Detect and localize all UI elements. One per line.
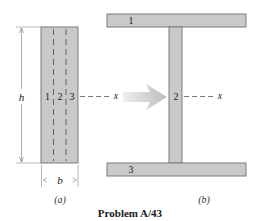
transform-arrow-icon [123, 84, 167, 110]
top-flange-label: 1 [129, 15, 134, 26]
strip-label-2: 2 [58, 91, 63, 102]
part-b-label: (b) [198, 194, 210, 206]
diagram-canvas: h b 1 2 3 x (a) 1 2 3 x (b) Problem A/43 [0, 0, 260, 221]
part-a-label: (a) [54, 194, 66, 206]
bottom-flange-label: 3 [129, 164, 134, 175]
section-b: 1 2 3 x (b) [107, 14, 246, 206]
x-axis-label-a: x [113, 90, 119, 101]
section-a: h b 1 2 3 x (a) [16, 27, 119, 206]
x-axis-label-b: x [217, 90, 223, 101]
b-arrowhead-right-icon [73, 178, 77, 182]
width-label: b [57, 174, 63, 186]
height-label: h [19, 91, 25, 103]
figure-caption: Problem A/43 [98, 207, 163, 219]
strip-label-3: 3 [70, 91, 75, 102]
web-label: 2 [174, 91, 179, 102]
strip-label-1: 1 [45, 91, 50, 102]
b-arrowhead-left-icon [43, 178, 47, 182]
